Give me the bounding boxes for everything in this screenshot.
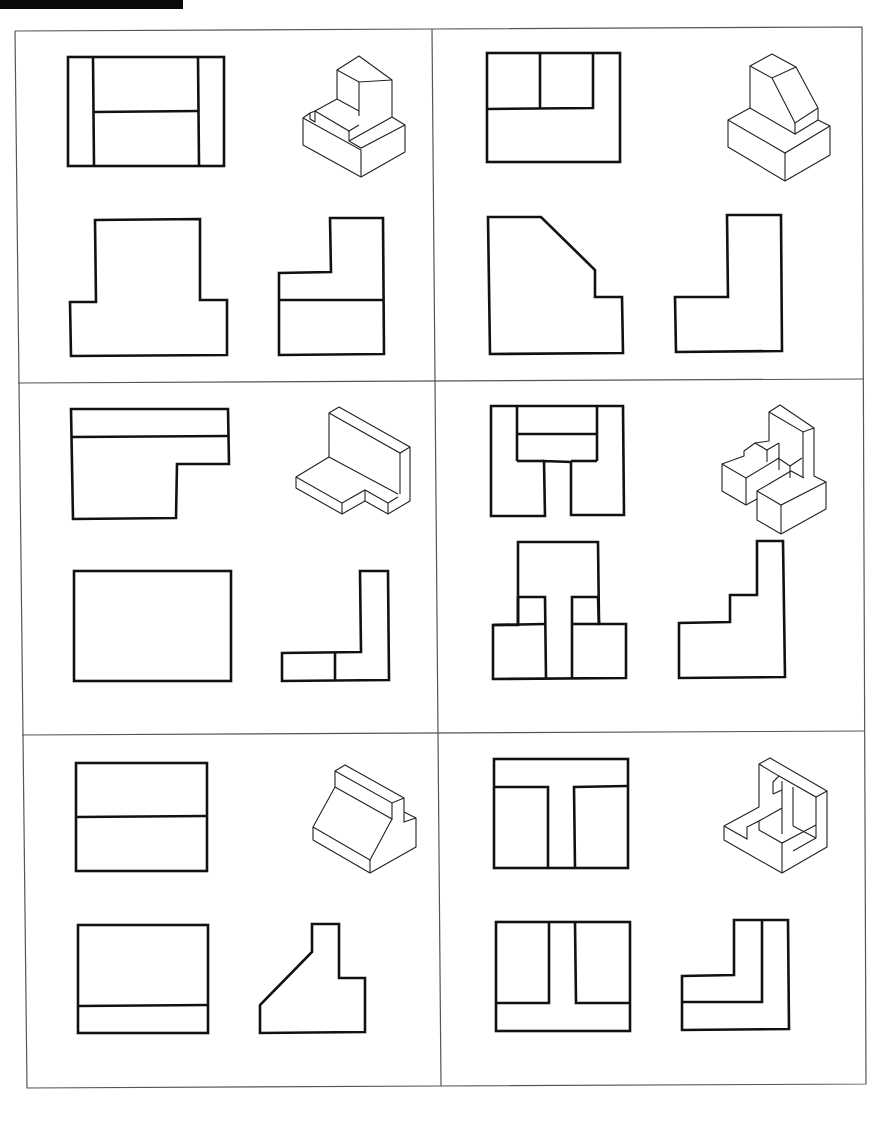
panel-1-front-view	[70, 219, 227, 356]
panel-4-isometric-view	[722, 405, 826, 534]
panel-3	[71, 407, 410, 681]
panel-1-side-view	[279, 218, 384, 355]
panel-2-isometric-view	[728, 54, 830, 181]
panel-5-isometric-view	[313, 765, 416, 873]
panel-2-side-view	[675, 215, 782, 352]
panel-4-top-view	[491, 406, 624, 516]
sheet-frame	[15, 27, 866, 1088]
panel-2-front-view	[488, 217, 623, 354]
panel-4-side-view	[679, 541, 785, 678]
panel-6-side-view	[682, 920, 789, 1030]
panel-5	[76, 763, 416, 1033]
panel-6	[494, 758, 827, 1031]
panel-6-isometric-view	[724, 758, 827, 873]
panel-1	[68, 56, 405, 356]
drawing-sheet	[0, 0, 879, 1127]
panel-3-front-view	[74, 571, 231, 681]
panel-1-isometric-view	[303, 56, 405, 177]
panel-3-isometric-view	[296, 407, 410, 514]
panel-4	[491, 405, 826, 679]
panel-5-front-view	[78, 925, 208, 1033]
panel-6-top-view	[494, 759, 628, 868]
panel-1-top-view	[68, 57, 224, 166]
panel-3-top-view	[71, 409, 229, 519]
panel-2-top-view	[487, 53, 620, 162]
panel-5-side-view	[260, 924, 365, 1033]
panel-5-top-view	[76, 763, 207, 871]
panel-2	[487, 53, 830, 354]
panel-4-front-view	[493, 542, 626, 679]
panel-6-front-view	[496, 922, 630, 1031]
panel-3-side-view	[282, 571, 389, 681]
